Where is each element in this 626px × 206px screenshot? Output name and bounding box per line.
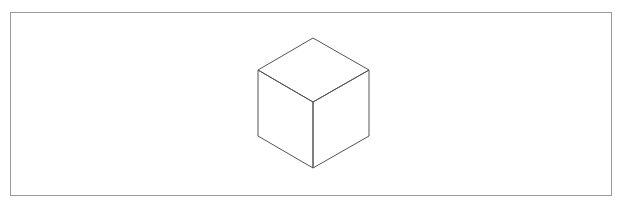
cube-right-face [313, 70, 369, 168]
cube-top-face [258, 38, 369, 102]
cube-left-face [258, 70, 313, 168]
cube-drawing [0, 0, 626, 206]
